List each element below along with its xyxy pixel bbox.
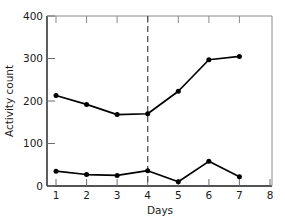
data-point-lower-day-4: [145, 168, 150, 173]
y-tick-label-400: 400: [23, 10, 43, 22]
data-point-upper-day-1: [54, 93, 59, 98]
data-point-upper-day-5: [176, 89, 181, 94]
data-point-upper-day-2: [84, 102, 89, 107]
y-tick-label-100: 100: [23, 137, 43, 149]
data-point-upper-day-3: [115, 112, 120, 117]
data-point-lower-day-7: [237, 174, 242, 179]
activity-count-line-chart: 0 100 200 300 400 1 2 3 4 5 6 7 8 Days A…: [0, 0, 285, 220]
y-axis-ticks: [47, 16, 55, 186]
data-point-lower-day-3: [115, 173, 120, 178]
x-axis-ticks: [56, 179, 270, 186]
x-tick-label-8: 8: [267, 189, 274, 201]
plot-frame: [47, 16, 272, 186]
x-tick-label-7: 7: [236, 189, 243, 201]
y-axis-title: Activity count: [3, 65, 15, 137]
x-tick-labels: 1 2 3 4 5 6 7 8: [53, 189, 274, 201]
data-point-lower-day-5: [176, 179, 181, 184]
x-tick-label-2: 2: [83, 189, 90, 201]
data-point-lower-day-2: [84, 172, 89, 177]
data-point-lower-day-1: [54, 169, 59, 174]
x-tick-label-5: 5: [175, 189, 182, 201]
y-tick-label-300: 300: [23, 52, 43, 64]
y-tick-label-200: 200: [23, 95, 43, 107]
data-point-upper-day-4: [145, 111, 150, 116]
x-tick-label-6: 6: [206, 189, 213, 201]
data-point-lower-day-6: [206, 159, 211, 164]
x-tick-label-1: 1: [53, 189, 60, 201]
x-tick-label-4: 4: [144, 189, 151, 201]
data-point-upper-day-6: [206, 57, 211, 62]
data-point-upper-day-7: [237, 54, 242, 59]
chart-svg: 0 100 200 300 400 1 2 3 4 5 6 7 8 Days A…: [0, 0, 285, 220]
x-axis-title: Days: [147, 204, 173, 216]
y-tick-label-0: 0: [36, 180, 43, 192]
y-tick-labels: 0 100 200 300 400: [23, 10, 43, 192]
x-tick-label-3: 3: [114, 189, 121, 201]
